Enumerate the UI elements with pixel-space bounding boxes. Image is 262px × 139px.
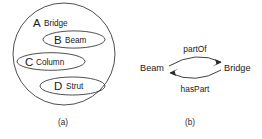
edge-arc-haspart — [170, 70, 221, 78]
edge-arc-partof — [169, 57, 221, 66]
caption-panel-a: (a) — [58, 118, 68, 127]
figure-root: A Bridge B Beam C Column D Strut (a) Bea… — [0, 0, 262, 139]
panel-a-group: A Bridge B Beam C Column D Strut (a) — [13, 3, 115, 127]
diagram-canvas: A Bridge B Beam C Column D Strut (a) Bea… — [0, 0, 262, 139]
edge-label-partof: partOf — [183, 44, 207, 54]
outer-class-letter: A — [33, 17, 41, 29]
outer-class-word: Bridge — [44, 19, 68, 28]
inner-class-letter-d: D — [54, 80, 62, 92]
edge-label-haspart: hasPart — [181, 84, 211, 94]
inner-class-letter-c: C — [25, 56, 33, 68]
node-label-beam: Beam — [140, 63, 164, 73]
caption-panel-b: (b) — [185, 118, 195, 127]
edge-arrowhead-partof — [213, 59, 222, 67]
inner-class-letter-b: B — [54, 34, 62, 46]
inner-class-word-column: Column — [36, 58, 65, 67]
panel-b-group: Beam Bridge partOf hasPart (b) — [140, 44, 251, 127]
node-label-bridge: Bridge — [224, 63, 251, 73]
edge-arrowhead-haspart — [170, 69, 179, 76]
inner-class-word-strut: Strut — [66, 82, 84, 91]
inner-class-word-beam: Beam — [65, 36, 87, 45]
